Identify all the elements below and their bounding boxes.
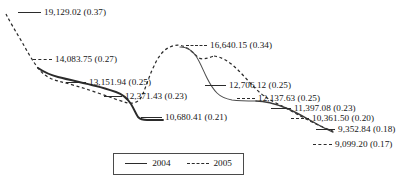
data-label-13151: 13,151.94 (0.25) <box>66 78 151 87</box>
legend-swatch-dashed-icon <box>187 163 209 164</box>
data-label-10361: 10,361.50 (0.20) <box>291 114 374 123</box>
data-label-text: 12,706.12 (0.25) <box>229 81 291 90</box>
data-label-10680: 10,680.41 (0.21) <box>141 113 227 122</box>
data-label-text: 11,397.08 (0.23) <box>294 104 356 113</box>
leader-line-dashed <box>291 118 309 119</box>
data-label-text: 10,680.41 (0.21) <box>165 113 227 122</box>
data-label-text: 16,640.15 (0.34) <box>210 41 272 50</box>
leader-line-solid <box>104 96 122 97</box>
leader-line-dashed <box>186 45 207 46</box>
chart-legend: 2004 2005 <box>113 153 244 175</box>
legend-item-2004: 2004 <box>125 159 170 168</box>
data-label-text: 9,099.20 (0.17) <box>335 140 392 149</box>
series-line-2004-peak <box>180 47 256 101</box>
legend-item-2005: 2005 <box>187 159 232 168</box>
leader-line-solid <box>18 12 41 13</box>
data-label-9352: 9,352.84 (0.18) <box>316 125 395 134</box>
legend-label: 2005 <box>214 159 232 168</box>
line-chart: 19,129.02 (0.37) 14,083.75 (0.27) 13,151… <box>0 0 417 183</box>
data-label-12371: 12,371.43 (0.23) <box>104 92 187 101</box>
data-label-text: 9,352.84 (0.18) <box>338 125 395 134</box>
legend-swatch-solid-icon <box>125 163 147 164</box>
data-label-19129: 19,129.02 (0.37) <box>18 8 106 17</box>
data-label-text: 12,137.63 (0.25) <box>258 94 320 103</box>
data-label-11397: 11,397.08 (0.23) <box>271 104 356 113</box>
leader-line-dashed <box>33 59 52 60</box>
data-label-14083: 14,083.75 (0.27) <box>33 55 117 64</box>
data-label-text: 12,371.43 (0.23) <box>125 92 187 101</box>
data-label-text: 13,151.94 (0.25) <box>89 78 151 87</box>
legend-label: 2004 <box>152 159 170 168</box>
leader-line-dashed <box>313 144 332 145</box>
leader-line-dashed <box>237 98 255 99</box>
data-label-text: 10,361.50 (0.20) <box>312 114 374 123</box>
leader-line-solid <box>141 117 162 118</box>
leader-line-solid <box>66 82 86 83</box>
data-label-12706: 12,706.12 (0.25) <box>205 81 291 90</box>
leader-line-solid <box>205 85 226 86</box>
data-label-text: 14,083.75 (0.27) <box>55 55 117 64</box>
leader-line-solid <box>271 108 291 109</box>
data-label-text: 19,129.02 (0.37) <box>44 8 106 17</box>
leader-line-solid <box>316 129 335 130</box>
data-label-9099: 9,099.20 (0.17) <box>313 140 392 149</box>
data-label-16640: 16,640.15 (0.34) <box>186 41 272 50</box>
data-label-12137: 12,137.63 (0.25) <box>237 94 320 103</box>
